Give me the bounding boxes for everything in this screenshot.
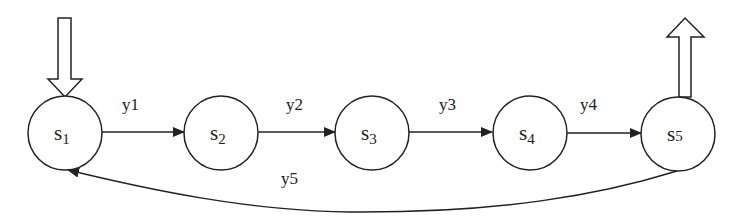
entry-arrow-icon [48, 18, 82, 97]
state-s4-sub: 4 [527, 131, 535, 147]
state-s3-sub: 3 [369, 131, 377, 147]
edge-label-y1: y1 [122, 95, 139, 114]
state-s2-base: s [210, 121, 218, 145]
state-s3-base: s [361, 121, 369, 145]
edge-label-y2: y2 [286, 95, 303, 114]
state-s4-base: s [519, 121, 527, 145]
state-s5-base: s [667, 122, 675, 146]
edge-label-y5: y5 [281, 169, 298, 188]
state-s3: s3 [335, 96, 409, 170]
state-diagram: y1 y2 y3 y4 y5 s1 s2 s3 s4 s5 [0, 0, 746, 218]
state-s2-sub: 2 [218, 131, 226, 147]
state-s2: s2 [184, 96, 258, 170]
state-s1-base: s [54, 121, 62, 145]
state-s1: s1 [28, 96, 102, 170]
state-s4: s4 [493, 96, 567, 170]
exit-arrow-icon [667, 18, 704, 97]
edge-label-y3: y3 [439, 95, 456, 114]
state-s5: s5 [641, 97, 715, 171]
state-s5-sub: 5 [675, 128, 683, 144]
state-s1-sub: 1 [62, 131, 70, 147]
edge-label-y4: y4 [580, 95, 598, 114]
transition-s5-s1 [68, 170, 677, 212]
